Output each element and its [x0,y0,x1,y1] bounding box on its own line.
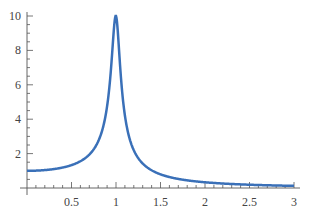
data-line [27,16,294,186]
y-tick-label: 6 [15,78,21,92]
tick-labels: 0.511.522.53246810 [9,9,297,209]
y-tick-label: 4 [15,112,21,126]
x-tick-label: 1 [113,195,119,209]
chart: 0.511.522.53246810 [0,0,309,215]
x-tick-label: 2 [202,195,208,209]
y-tick-label: 2 [15,147,21,161]
x-tick-label: 2.5 [242,195,257,209]
x-tick-label: 3 [291,195,297,209]
x-tick-label: 0.5 [64,195,79,209]
y-tick-label: 10 [9,9,21,23]
y-tick-label: 8 [15,43,21,57]
x-tick-label: 1.5 [153,195,168,209]
